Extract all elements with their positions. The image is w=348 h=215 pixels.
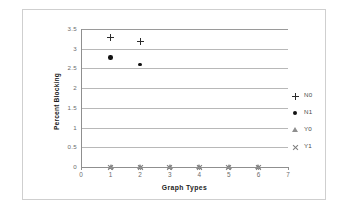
x-tick-label: 3 xyxy=(162,171,178,178)
x-tick-label: 4 xyxy=(191,171,207,178)
y-tick-label: 0 xyxy=(37,163,77,170)
x-tick-mark xyxy=(81,167,82,170)
legend-item-y1[interactable]: Y1 xyxy=(291,139,347,156)
triangle-marker-icon xyxy=(292,127,298,132)
gridline xyxy=(81,68,288,69)
x-tick-mark xyxy=(288,167,289,170)
x-tick-mark xyxy=(111,167,112,170)
legend-item-n1[interactable]: N1 xyxy=(291,105,347,122)
legend-label: Y0 xyxy=(304,125,312,132)
legend-item-y0[interactable]: Y0 xyxy=(291,122,347,139)
gridline xyxy=(81,147,288,148)
x-tick-mark xyxy=(199,167,200,170)
gridline xyxy=(81,49,288,50)
plot-area xyxy=(81,29,288,167)
x-tick-label: 2 xyxy=(132,171,148,178)
x-tick-label: 5 xyxy=(221,171,237,178)
gridline xyxy=(81,88,288,89)
x-tick-mark xyxy=(140,167,141,170)
x-tick-mark xyxy=(258,167,259,170)
y-axis-tick-labels: 00.511.522.533.5 xyxy=(35,10,77,201)
x-tick-mark xyxy=(229,167,230,170)
cross-marker-icon xyxy=(292,144,298,150)
y-tick-label: 3 xyxy=(37,45,77,52)
x-tick-label: 7 xyxy=(280,171,296,178)
legend-label: N0 xyxy=(304,91,312,98)
gridline xyxy=(81,108,288,109)
y-tick-label: 2 xyxy=(37,84,77,91)
y-tick-label: 3.5 xyxy=(37,25,77,32)
x-tick-label: 0 xyxy=(73,171,89,178)
y-axis-line xyxy=(81,29,82,168)
plot-top-border xyxy=(81,29,288,30)
x-axis-tick-labels: 01234567 xyxy=(81,171,289,185)
x-tick-mark xyxy=(170,167,171,170)
chart-legend: N0N1Y0Y1 xyxy=(291,88,347,156)
y-tick-label: 0.5 xyxy=(37,143,77,150)
x-tick-label: 6 xyxy=(250,171,266,178)
x-axis-title: Graph Types xyxy=(81,184,288,191)
plus-marker-icon xyxy=(137,38,144,45)
x-tick-label: 1 xyxy=(103,171,119,178)
filled-circle-marker-icon xyxy=(138,63,142,67)
legend-label: N1 xyxy=(304,108,312,115)
chart-frame: Percent Blocking 00.511.522.533.5 012345… xyxy=(22,9,326,200)
legend-label: Y1 xyxy=(304,142,312,149)
plus-marker-icon xyxy=(292,93,299,100)
filled-circle-marker-icon xyxy=(293,111,297,115)
legend-item-n0[interactable]: N0 xyxy=(291,88,347,105)
plus-marker-icon xyxy=(107,34,114,41)
filled-circle-marker-icon xyxy=(108,55,112,59)
y-tick-label: 1 xyxy=(37,124,77,131)
y-tick-label: 1.5 xyxy=(37,104,77,111)
gridline xyxy=(81,128,288,129)
y-tick-label: 2.5 xyxy=(37,64,77,71)
